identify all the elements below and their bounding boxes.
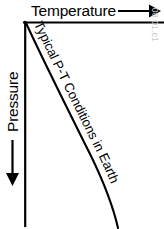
pt-diagram-figure: Temperature Pressure Typical P-T Conditi… [0, 0, 164, 229]
y-axis-label: Pressure [4, 72, 21, 132]
curve-label-textpath: Typical P-T Conditions in Earth [31, 19, 122, 186]
x-axis-label: Temperature [31, 2, 116, 19]
diagram-canvas: Temperature Pressure Typical P-T Conditi… [0, 0, 164, 229]
curve-label-text: Typical P-T Conditions in Earth [31, 19, 122, 186]
geotherm-curve [26, 23, 118, 228]
figure-id-watermark: 08.01.c1 [150, 8, 160, 42]
pressure-arrow-icon [6, 140, 19, 186]
